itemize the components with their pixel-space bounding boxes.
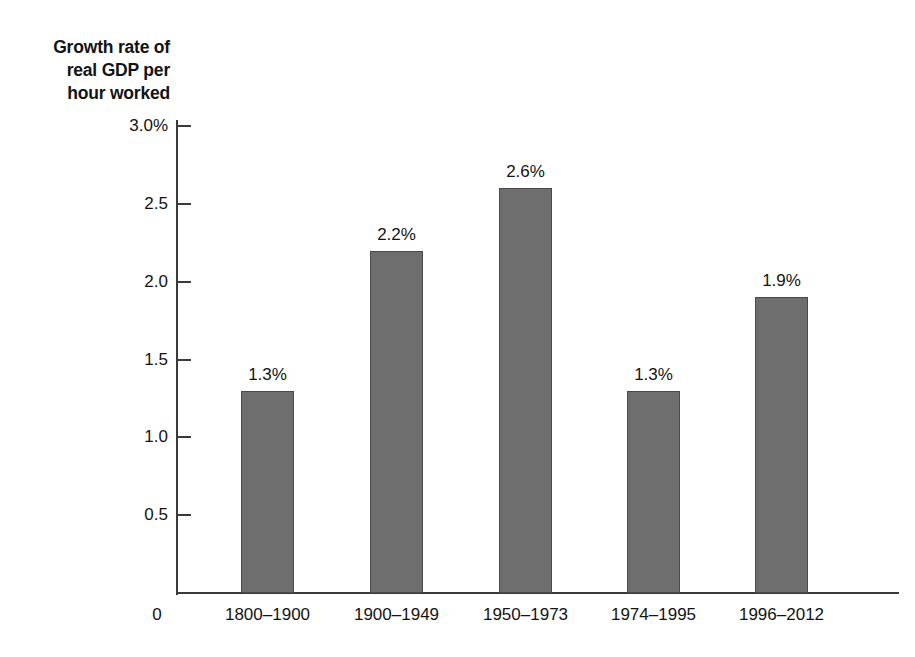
bar-value-label: 1.9% [737,272,827,289]
bars-layer: 1.3%2.2%2.6%1.3%1.9% [0,0,915,657]
x-axis-tick-label: 1800–1900 [203,606,333,623]
x-axis-tick-label: 1974–1995 [589,606,719,623]
x-axis-tick-label: 1996–2012 [717,606,847,623]
bar-value-label: 1.3% [609,366,699,383]
bar-chart-figure: Growth rate of real GDP per hour worked … [0,0,915,657]
bar-value-label: 1.3% [223,366,313,383]
bar-value-label: 2.2% [352,226,442,243]
bar [241,391,294,593]
x-axis-tick-labels: 1800–19001900–19491950–19731974–19951996… [0,606,915,636]
bar [499,188,552,593]
bar [370,251,423,593]
x-axis-tick-label: 1950–1973 [461,606,591,623]
bar [627,391,680,593]
bar-value-label: 2.6% [481,163,571,180]
bar [755,297,808,593]
x-axis-tick-label: 1900–1949 [332,606,462,623]
